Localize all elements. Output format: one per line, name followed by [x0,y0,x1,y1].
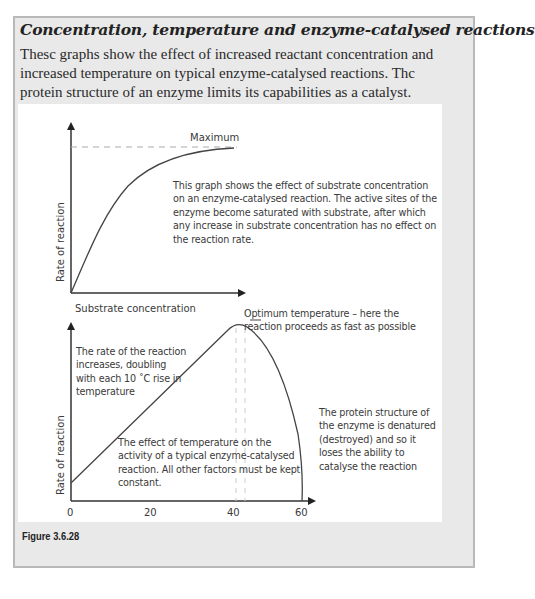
box-title: Concentration, temperature and enzyme-ca… [20,20,535,39]
maximum-label: Maximum [190,132,239,143]
substrate-note: This graph shows the effect of substrate… [173,179,438,246]
intro-paragraph: Thesc graphs show the effect of increase… [20,45,450,102]
x-tick-40: 40 [227,507,240,518]
figure-caption: Figure 3.6.28 [22,530,79,542]
denatured-note: The protein structure of the enzyme is d… [319,406,439,473]
effect-note: The effect of temperature on the activit… [118,436,308,490]
graph1-x-label: Substrate concentration [75,303,196,314]
optimum-note: Optimum temperature – here the reaction … [244,307,434,334]
x-tick-60: 60 [295,507,308,518]
rising-note: The rate of the reaction increases, doub… [76,345,188,399]
figure-panel: Rate of reaction Substrate concentration… [18,104,442,522]
x-tick-0: 0 [67,507,73,518]
x-tick-20: 20 [144,507,157,518]
graph1-y-label: Rate of reaction [55,202,66,282]
graph2-y-label: Rate of reaction [55,415,66,495]
